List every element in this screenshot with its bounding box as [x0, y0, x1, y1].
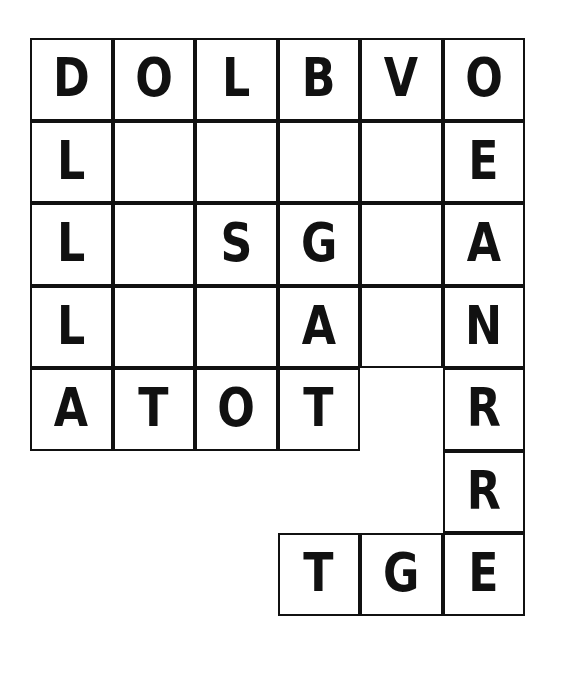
grid-cell-r5-c4[interactable]: T	[278, 368, 361, 451]
grid-cell-r1-c1[interactable]: D	[30, 38, 113, 121]
cell-letter: V	[384, 51, 418, 105]
grid-cell-r1-c6[interactable]: O	[443, 38, 526, 121]
cell-letter: T	[304, 381, 334, 435]
grid-cell-r2-c6[interactable]: E	[443, 121, 526, 204]
grid-cell-r1-c3[interactable]: L	[195, 38, 278, 121]
grid-cell-r2-c3[interactable]	[195, 121, 278, 204]
cell-letter: L	[57, 216, 85, 270]
grid-cell-r2-c4[interactable]	[278, 121, 361, 204]
grid-cell-r4-c2[interactable]	[113, 286, 196, 369]
grid-cell-r4-c1[interactable]: L	[30, 286, 113, 369]
grid-cell-r4-c3[interactable]	[195, 286, 278, 369]
cell-letter: L	[57, 134, 85, 188]
grid-cell-r2-c2[interactable]	[113, 121, 196, 204]
grid-cell-r1-c5[interactable]: V	[360, 38, 443, 121]
cell-letter: O	[135, 51, 173, 105]
grid-cell-r3-c1[interactable]: L	[30, 203, 113, 286]
cell-letter: E	[469, 546, 499, 600]
grid-cell-r3-c6[interactable]: A	[443, 203, 526, 286]
cell-letter: G	[301, 216, 337, 270]
cell-letter: R	[467, 464, 501, 518]
grid-cell-r3-c2[interactable]	[113, 203, 196, 286]
cell-letter: A	[302, 299, 336, 353]
grid-cell-r3-c3[interactable]: S	[195, 203, 278, 286]
grid-cell-r4-c5[interactable]	[360, 286, 443, 369]
cell-letter: A	[54, 381, 88, 435]
cell-letter: N	[465, 299, 502, 353]
word-puzzle-grid: DOLBVOLELSGALANATOTRRTGE	[0, 0, 570, 685]
cell-letter: D	[53, 51, 90, 105]
grid-cell-r5-c1[interactable]: A	[30, 368, 113, 451]
grid-cell-r5-c6[interactable]: R	[443, 368, 526, 451]
grid-cell-r4-c6[interactable]: N	[443, 286, 526, 369]
grid-cell-r1-c2[interactable]: O	[113, 38, 196, 121]
cell-letter: R	[467, 381, 501, 435]
grid-cell-r1-c4[interactable]: B	[278, 38, 361, 121]
cell-letter: L	[222, 51, 250, 105]
cell-letter: B	[302, 51, 336, 105]
grid-cell-r2-c5[interactable]	[360, 121, 443, 204]
cell-letter: T	[139, 381, 169, 435]
grid-cell-r7-c5[interactable]: G	[360, 533, 443, 616]
cell-letter: L	[57, 299, 85, 353]
grid-cell-r5-c2[interactable]: T	[113, 368, 196, 451]
grid-cell-r3-c5[interactable]	[360, 203, 443, 286]
grid-cell-r7-c6[interactable]: E	[443, 533, 526, 616]
grid-cell-r2-c1[interactable]: L	[30, 121, 113, 204]
cell-letter: O	[217, 381, 255, 435]
cell-letter: T	[304, 546, 334, 600]
cell-letter: O	[465, 51, 503, 105]
grid-cell-r7-c4[interactable]: T	[278, 533, 361, 616]
cell-letter: G	[383, 546, 419, 600]
cell-letter: A	[467, 216, 501, 270]
grid-cell-r4-c4[interactable]: A	[278, 286, 361, 369]
cell-letter: S	[220, 216, 252, 270]
grid-cell-r5-c3[interactable]: O	[195, 368, 278, 451]
grid-cell-r6-c6[interactable]: R	[443, 451, 526, 534]
cell-letter: E	[469, 134, 499, 188]
grid-cell-r3-c4[interactable]: G	[278, 203, 361, 286]
